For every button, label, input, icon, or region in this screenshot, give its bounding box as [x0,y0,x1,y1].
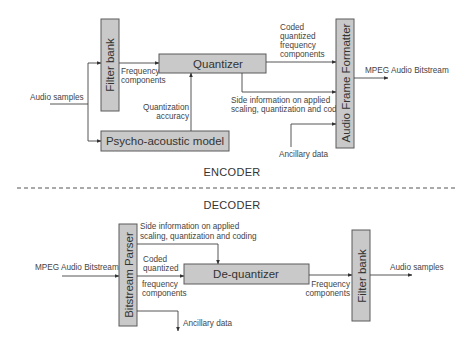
decoder-filter-bank-label: Filter bank [356,249,368,303]
arrow-side-information [242,73,336,92]
encoder-output-label: MPEG Audio Bitstream [365,66,449,75]
decoder-frequency-components-in-label-2: components [142,289,187,298]
decoder-coded-quantized-label-1: Coded [143,255,168,264]
decoder-side-information-label-2: scaling, quantization and coding [140,232,257,241]
decoder-frequency-components-out-label-2: components [305,289,350,298]
bitstream-parser-label: Bitstream Parser [123,232,135,318]
encoder-section: Audio samples Filter bank Frequency comp… [30,19,449,178]
side-information-label-1: Side information on applied [231,96,331,105]
de-quantizer-label: De-quantizer [213,268,279,280]
mpeg-audio-codec-diagram: Audio samples Filter bank Frequency comp… [0,0,469,343]
decoder-frequency-components-in-label-1: frequency [142,280,179,289]
psycho-acoustic-model-block: Psycho-acoustic model [101,131,229,151]
decoder-input-label: MPEG Audio Bitstream [35,263,119,272]
coded-quantized-label-2: quantized [280,32,316,41]
encoder-filter-bank-block: Filter bank [101,19,119,111]
frequency-components-label-1: Frequency [121,67,161,76]
quantization-accuracy-label-2: accuracy [156,112,190,121]
decoder-ancillary-data-label: Ancillary data [183,319,233,328]
encoder-ancillary-data-label: Ancillary data [279,150,329,159]
decoder-arrow-ancillary-data [137,311,178,331]
coded-quantized-label-4: components [280,50,325,59]
decoder-output-label: Audio samples [390,263,444,272]
quantizer-block: Quantizer [159,54,266,73]
arrow-ancillary-data [291,124,336,147]
side-information-label-2: scaling, quantization and coding [231,105,348,114]
encoder-input-label: Audio samples [30,93,84,102]
psycho-acoustic-model-label: Psycho-acoustic model [106,135,224,147]
bitstream-parser-block: Bitstream Parser [119,224,137,326]
audio-frame-formatter-block: Audio Frame Formatter [336,19,354,148]
coded-quantized-label-3: frequency [280,41,317,50]
decoder-filter-bank-block: Filter bank [352,230,370,321]
audio-frame-formatter-label: Audio Frame Formatter [340,23,352,142]
decoder-side-information-label-1: Side information on applied [140,222,240,231]
quantization-accuracy-label-1: Quantization [143,103,189,112]
decoder-title: DECODER [203,199,260,211]
frequency-components-label-2: components [121,76,166,85]
encoder-title: ENCODER [203,166,260,178]
de-quantizer-block: De-quantizer [184,264,309,284]
decoder-section: DECODER MPEG Audio Bitstream Bitstream P… [35,199,444,331]
encoder-filter-bank-label: Filter bank [104,38,116,92]
decoder-frequency-components-out-label-1: Frequency [311,280,351,289]
decoder-coded-quantized-label-2: quantized [143,264,179,273]
coded-quantized-label-1: Coded [280,23,305,32]
quantizer-label: Quantizer [193,58,243,70]
